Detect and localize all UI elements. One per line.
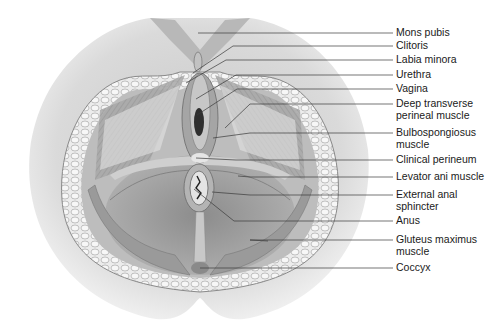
label-clitoris: Clitoris [396, 40, 428, 52]
label-coccyx: Coccyx [396, 262, 430, 274]
clitoris-shape [194, 52, 202, 72]
label-labia-minora: Labia minora [396, 54, 457, 66]
label-clinical-perineum: Clinical perineum [396, 154, 477, 166]
label-vagina: Vagina [396, 83, 428, 95]
label-deep-transverse-perineal-muscle: Deep transverse perineal muscle [396, 98, 473, 121]
perineum-diagram: Mons pubisClitorisLabia minoraUrethraVag… [0, 0, 497, 333]
label-anus: Anus [396, 215, 420, 227]
vaginal-opening [194, 108, 204, 136]
label-levator-ani-muscle: Levator ani muscle [396, 171, 484, 183]
label-gluteus-maximus-muscle: Gluteus maximus muscle [396, 234, 477, 257]
label-external-anal-sphincter: External anal sphincter [396, 189, 457, 212]
label-mons-pubis: Mons pubis [396, 27, 450, 39]
label-urethra: Urethra [396, 69, 431, 81]
label-bulbospongiosus-muscle: Bulbospongiosus muscle [396, 127, 476, 150]
